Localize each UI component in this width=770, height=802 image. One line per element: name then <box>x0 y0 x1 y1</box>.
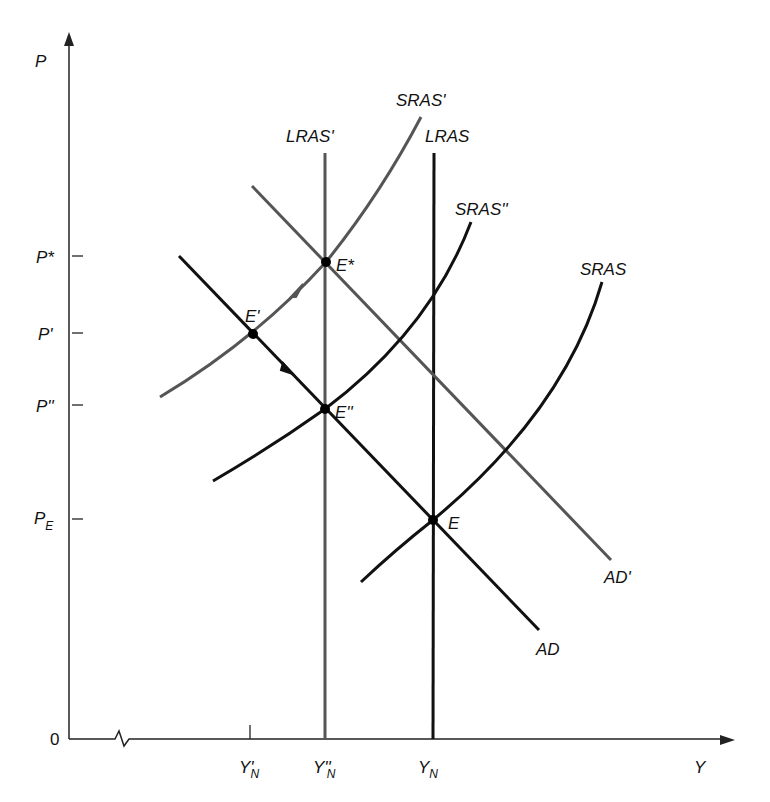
lras-label: LRAS <box>425 127 470 146</box>
point-e <box>428 515 438 525</box>
lras-curve <box>433 153 434 739</box>
arrow-along-ad-icon <box>281 363 293 374</box>
point-e-star <box>321 257 331 267</box>
origin-label: 0 <box>50 730 59 749</box>
point-e-label: E <box>448 514 460 533</box>
x-tick-label-yn: YN <box>418 758 438 781</box>
ad-prime-label: AD' <box>603 568 632 587</box>
x-ticks: Y'N Y''N YN <box>239 725 438 781</box>
ad-curve <box>179 256 539 630</box>
sras-prime-label: SRAS' <box>396 91 446 110</box>
point-e-star-label: E* <box>336 256 355 275</box>
sras-curve <box>361 282 602 582</box>
point-e-double-prime <box>320 404 330 414</box>
y-axis-label: P <box>35 52 47 71</box>
ad-label: AD <box>535 640 560 659</box>
lras-prime-label: LRAS' <box>286 127 334 146</box>
axes <box>64 32 735 746</box>
equilibrium-points: E* E' E'' E <box>245 256 460 533</box>
y-tick-label-p-e: PE <box>34 509 54 533</box>
sras-label: SRAS <box>580 260 627 279</box>
point-e-prime <box>248 329 258 339</box>
y-tick-label-p-star: P* <box>36 248 55 267</box>
x-tick-label-yn-prime: Y'N <box>239 758 260 781</box>
y-tick-label-p-double-prime: P'' <box>36 397 55 416</box>
x-axis-arrow-icon <box>720 735 735 745</box>
point-e-prime-label: E' <box>245 307 260 326</box>
sras-double-prime-label: SRAS'' <box>455 200 509 219</box>
x-axis-label: Y <box>694 758 707 777</box>
arrow-along-sras-prime-icon <box>291 284 303 297</box>
ad-as-diagram: P Y 0 P* P' P'' PE Y'N Y''N YN LRAS' LRA… <box>0 0 770 802</box>
y-tick-label-p-prime: P' <box>38 325 53 344</box>
point-e-double-prime-label: E'' <box>335 403 354 422</box>
x-tick-label-yn-double-prime: Y''N <box>313 758 336 781</box>
sras-prime-curve <box>160 117 421 397</box>
x-axis <box>69 731 720 746</box>
y-axis-arrow-icon <box>64 32 74 46</box>
y-ticks: P* P' P'' PE <box>34 248 83 533</box>
ad-prime-curve <box>252 186 611 560</box>
